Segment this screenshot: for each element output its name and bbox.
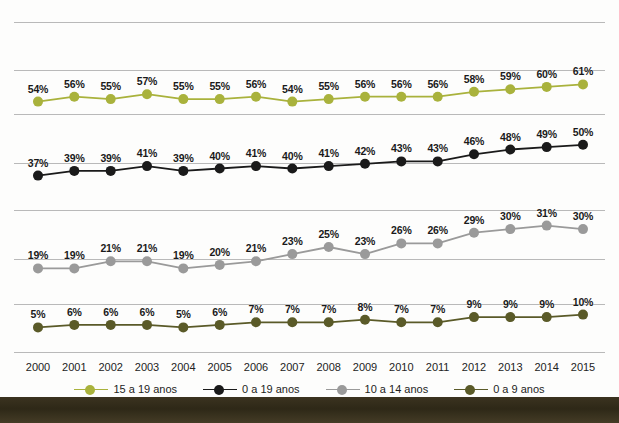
data-point-label: 56% xyxy=(64,78,84,90)
data-point-marker[interactable] xyxy=(505,312,515,322)
data-point-marker[interactable] xyxy=(33,97,43,107)
x-axis-tick-2011: 2011 xyxy=(426,361,450,373)
data-point-label: 56% xyxy=(246,78,266,90)
data-point-marker[interactable] xyxy=(324,317,334,327)
data-point-marker[interactable] xyxy=(578,79,588,89)
data-point-marker[interactable] xyxy=(360,159,370,169)
data-point-marker[interactable] xyxy=(287,249,297,259)
data-point-marker[interactable] xyxy=(106,94,116,104)
data-point-marker[interactable] xyxy=(287,317,297,327)
data-point-marker[interactable] xyxy=(215,164,225,174)
data-point-marker[interactable] xyxy=(178,322,188,332)
data-point-label: 31% xyxy=(536,207,556,219)
data-point-marker[interactable] xyxy=(251,161,261,171)
data-point-marker[interactable] xyxy=(178,263,188,273)
data-point-marker[interactable] xyxy=(396,156,406,166)
data-point-label: 58% xyxy=(464,73,484,85)
data-point-marker[interactable] xyxy=(33,263,43,273)
data-point-marker[interactable] xyxy=(69,166,79,176)
data-point-marker[interactable] xyxy=(505,145,515,155)
legend-item-10-a-14-anos[interactable]: 10 a 14 anos xyxy=(326,383,429,395)
data-point-marker[interactable] xyxy=(215,260,225,270)
data-point-marker[interactable] xyxy=(433,156,443,166)
x-axis-tick-2013: 2013 xyxy=(498,361,522,373)
data-point-marker[interactable] xyxy=(69,263,79,273)
data-point-label: 56% xyxy=(427,78,447,90)
data-point-marker[interactable] xyxy=(505,224,515,234)
data-point-marker[interactable] xyxy=(578,140,588,150)
data-point-label: 7% xyxy=(321,303,336,315)
data-point-label: 41% xyxy=(137,147,157,159)
legend-swatch-icon xyxy=(454,384,488,395)
data-point-label: 19% xyxy=(173,249,193,261)
data-point-marker[interactable] xyxy=(178,166,188,176)
data-point-marker[interactable] xyxy=(396,317,406,327)
data-point-label: 30% xyxy=(500,210,520,222)
data-point-label: 49% xyxy=(536,128,556,140)
legend-label: 0 a 19 anos xyxy=(242,383,300,395)
data-point-label: 5% xyxy=(31,308,46,320)
data-point-marker[interactable] xyxy=(106,320,116,330)
data-point-marker[interactable] xyxy=(469,87,479,97)
data-point-marker[interactable] xyxy=(578,310,588,320)
legend-item-15-a-19-anos[interactable]: 15 a 19 anos xyxy=(74,383,177,395)
data-point-label: 19% xyxy=(64,249,84,261)
data-point-label: 57% xyxy=(137,75,157,87)
data-point-marker[interactable] xyxy=(324,94,334,104)
data-point-marker[interactable] xyxy=(106,166,116,176)
data-point-marker[interactable] xyxy=(215,320,225,330)
data-point-label: 39% xyxy=(100,152,120,164)
data-point-marker[interactable] xyxy=(251,256,261,266)
data-point-label: 6% xyxy=(140,306,155,318)
data-point-marker[interactable] xyxy=(433,317,443,327)
x-axis-tick-2009: 2009 xyxy=(353,361,377,373)
data-point-marker[interactable] xyxy=(287,164,297,174)
data-point-marker[interactable] xyxy=(215,94,225,104)
data-point-marker[interactable] xyxy=(542,221,552,231)
data-point-marker[interactable] xyxy=(69,92,79,102)
data-point-marker[interactable] xyxy=(542,142,552,152)
data-point-label: 9% xyxy=(467,298,482,310)
data-point-marker[interactable] xyxy=(69,320,79,330)
data-point-marker[interactable] xyxy=(106,256,116,266)
data-point-marker[interactable] xyxy=(33,171,43,181)
data-point-marker[interactable] xyxy=(251,317,261,327)
data-point-label: 56% xyxy=(355,78,375,90)
data-point-label: 41% xyxy=(246,147,266,159)
data-point-marker[interactable] xyxy=(142,320,152,330)
data-point-marker[interactable] xyxy=(469,228,479,238)
data-point-marker[interactable] xyxy=(542,82,552,92)
data-point-marker[interactable] xyxy=(542,312,552,322)
data-point-marker[interactable] xyxy=(396,238,406,248)
data-point-label: 42% xyxy=(355,145,375,157)
data-point-marker[interactable] xyxy=(505,84,515,94)
data-point-marker[interactable] xyxy=(360,92,370,102)
data-point-marker[interactable] xyxy=(142,89,152,99)
data-point-marker[interactable] xyxy=(142,256,152,266)
data-point-marker[interactable] xyxy=(360,249,370,259)
data-point-marker[interactable] xyxy=(251,92,261,102)
data-point-label: 26% xyxy=(391,224,411,236)
data-point-marker[interactable] xyxy=(433,238,443,248)
data-point-marker[interactable] xyxy=(178,94,188,104)
data-point-marker[interactable] xyxy=(433,92,443,102)
data-point-marker[interactable] xyxy=(142,161,152,171)
data-point-marker[interactable] xyxy=(360,315,370,325)
data-point-label: 25% xyxy=(318,228,338,240)
data-point-label: 43% xyxy=(427,142,447,154)
data-point-marker[interactable] xyxy=(324,161,334,171)
legend-item-0-a-19-anos[interactable]: 0 a 19 anos xyxy=(203,383,300,395)
data-point-marker[interactable] xyxy=(469,312,479,322)
data-point-marker[interactable] xyxy=(324,242,334,252)
data-point-label: 61% xyxy=(573,65,593,77)
data-point-marker[interactable] xyxy=(578,224,588,234)
data-point-marker[interactable] xyxy=(287,97,297,107)
data-point-label: 30% xyxy=(573,210,593,222)
data-point-marker[interactable] xyxy=(469,149,479,159)
data-point-marker[interactable] xyxy=(33,322,43,332)
data-point-marker[interactable] xyxy=(396,92,406,102)
legend-item-0-a-9-anos[interactable]: 0 a 9 anos xyxy=(454,383,544,395)
data-point-label: 55% xyxy=(318,80,338,92)
data-point-label: 55% xyxy=(209,80,229,92)
data-point-label: 40% xyxy=(209,150,229,162)
